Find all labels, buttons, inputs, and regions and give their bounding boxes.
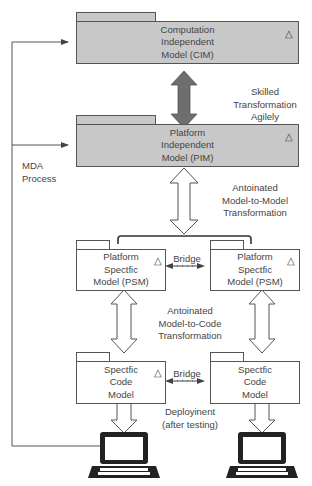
psm-left-line-1: Platform: [103, 251, 138, 264]
mda-process-label: MDA Process: [22, 160, 56, 185]
transform-m2c-label: Antoinated Model-to-Code Transformation: [145, 305, 235, 343]
hollow-double-arrow-left: [111, 290, 137, 353]
laptop-icon-left: [88, 432, 160, 478]
transform-m2m-label: Antoinated Model-to-Model Transformation: [210, 182, 300, 220]
psm-right-line-3: Model (PSM): [227, 276, 282, 289]
cim-line-2: Independent: [161, 36, 214, 49]
psm-left-line-3: Model (PSM): [93, 276, 148, 289]
pim-line-2: Independent: [161, 139, 214, 152]
label-line: Model-to-Code: [145, 318, 235, 331]
label-line: Skilled: [225, 86, 305, 99]
code-left-line-3: Model: [108, 389, 134, 402]
dark-double-arrow: [171, 71, 197, 128]
cim-line-3: Model (CIM): [161, 49, 213, 62]
label-line: Antoinated: [210, 182, 300, 195]
pim-line-3: Model (PIM): [162, 152, 214, 165]
label-line: (after testing): [150, 419, 230, 432]
deploy-arrow-left: [111, 404, 137, 433]
psm-right-line-1: Platform: [237, 251, 272, 264]
label-line: Deployinent: [150, 406, 230, 419]
code-right-line-1: Spectfic: [238, 364, 272, 377]
code-left-box: Spectfic Code Model: [76, 361, 166, 404]
psm-left-box: Platform Spectfic Model (PSM): [76, 249, 166, 291]
triangle-icon: △: [285, 132, 293, 142]
psm-left-line-2: Spectfic: [104, 264, 138, 277]
cim-line-1: Computation: [161, 24, 215, 37]
pim-box: Platform Independent Model (PIM): [76, 124, 299, 167]
triangle-icon: △: [154, 256, 162, 266]
code-left-line-2: Code: [110, 376, 133, 389]
code-right-line-2: Code: [244, 376, 267, 389]
triangle-icon: △: [154, 368, 162, 378]
triangle-icon: △: [285, 29, 293, 39]
hollow-double-arrow-right: [249, 290, 275, 353]
label-line: Transformation: [210, 207, 300, 220]
label-line: Transformation: [225, 99, 305, 112]
label-line: Transformation: [145, 330, 235, 343]
cim-box: Computation Independent Model (CIM): [76, 21, 299, 64]
deploy-arrow-right: [249, 404, 275, 433]
deployment-label: Deployinent (after testing): [150, 406, 230, 431]
label-line: MDA: [22, 160, 56, 173]
bridge-code-label: Bridge: [172, 368, 202, 381]
hollow-double-arrow-m2m: [170, 168, 198, 234]
code-right-box: Spectfic Code Model: [210, 361, 300, 404]
label-line: Agilely: [225, 111, 305, 124]
code-right-line-3: Model: [242, 389, 268, 402]
bridge-psm-label: Bridge: [172, 253, 202, 266]
psm-right-line-2: Spectfic: [238, 264, 272, 277]
triangle-icon: △: [287, 256, 295, 266]
label-line: Antoinated: [145, 305, 235, 318]
transform-cim-pim-label: Skilled Transformation Agilely: [225, 86, 305, 124]
label-line: Model-to-Model: [210, 195, 300, 208]
code-left-line-1: Spectfic: [104, 364, 138, 377]
laptop-icon-right: [226, 432, 298, 478]
pim-line-1: Platform: [170, 127, 205, 140]
label-line: Process: [22, 173, 56, 186]
